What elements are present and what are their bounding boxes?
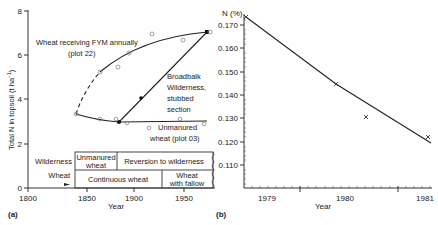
a-y-tick-label: 0 bbox=[18, 184, 23, 193]
a-y-tick-label: 2 bbox=[18, 140, 23, 149]
b-y-tick-label: 0.170 bbox=[218, 21, 239, 30]
a-x-tick-label: 1900 bbox=[125, 194, 143, 203]
a-x-axis-title: Year bbox=[108, 202, 125, 211]
a-y-tick-label: 6 bbox=[18, 51, 23, 60]
panel-a: 0 2 4 6 8 1800 1850 1900 1950 Year (a) T… bbox=[6, 7, 215, 219]
broadbalk-label: Broadbalk bbox=[167, 72, 201, 81]
a-x-tick-label: 1800 bbox=[19, 194, 37, 203]
broadbalk-label: section bbox=[167, 105, 191, 114]
b-y-axis-title: N (%) bbox=[222, 9, 243, 18]
row-label-wheat: Wheat bbox=[48, 171, 71, 180]
panel-a-label: (a) bbox=[8, 210, 18, 219]
broadbalk-marker bbox=[139, 96, 143, 100]
cell-unmanured-wheat: wheat bbox=[85, 161, 107, 170]
unmanured-label: wheat (plot 03) bbox=[149, 134, 200, 143]
b-y-ticks bbox=[240, 25, 244, 165]
broadbalk-marker bbox=[117, 120, 121, 124]
b-x-axis-title: Year bbox=[315, 202, 332, 211]
b-y-tick-label: 0.150 bbox=[218, 68, 239, 77]
a-x-tick-label: 1850 bbox=[78, 194, 96, 203]
b-trend-line bbox=[246, 17, 431, 143]
cell-continuous-wheat: Continuous wheat bbox=[88, 175, 149, 184]
cell-wheat-fallow: with fallow bbox=[169, 179, 205, 188]
b-x-tick-label: 1979 bbox=[258, 194, 276, 203]
fym-label: Wheat receiving FYM annually bbox=[36, 38, 138, 47]
broadbalk-label: stubbed bbox=[167, 94, 194, 103]
a-x-tick-label: 1950 bbox=[175, 194, 193, 203]
unmanured-label: Unmanured bbox=[158, 123, 197, 132]
b-x-tick-label: 1980 bbox=[336, 194, 354, 203]
row-label-wilderness: Wilderness bbox=[35, 157, 72, 166]
b-y-tick-label: 0.120 bbox=[218, 138, 239, 147]
b-y-tick-label: 0.140 bbox=[218, 91, 239, 100]
b-x-tick-label: 1981 bbox=[416, 194, 434, 203]
b-y-tick-label: 0.160 bbox=[218, 44, 239, 53]
b-y-tick-label: 0.130 bbox=[218, 114, 239, 123]
a-y-axis-title: Total N in topsoil (t ha−1) bbox=[6, 69, 16, 150]
b-y-tick-label: 0.110 bbox=[219, 161, 239, 170]
a-y-tick-label: 8 bbox=[18, 7, 23, 16]
arrow-icon bbox=[64, 183, 70, 186]
fym-label: (plot 22) bbox=[68, 49, 96, 58]
fym-curve-dashed bbox=[76, 72, 100, 114]
a-y-tick-label: 4 bbox=[18, 95, 23, 104]
panel-b-label: (b) bbox=[216, 210, 227, 219]
cell-reversion: Reversion to wilderness bbox=[124, 157, 204, 166]
unmanured-curve bbox=[76, 114, 207, 122]
a-y-ticks bbox=[24, 11, 28, 188]
a-x-ticks bbox=[28, 188, 184, 192]
panel-b: 0.170 0.160 0.150 0.140 0.130 0.120 0.11… bbox=[216, 9, 434, 219]
b-data-markers bbox=[244, 15, 430, 139]
figure: 0 2 4 6 8 1800 1850 1900 1950 Year (a) T… bbox=[0, 0, 438, 225]
broadbalk-label: Wilderness, bbox=[167, 83, 206, 92]
